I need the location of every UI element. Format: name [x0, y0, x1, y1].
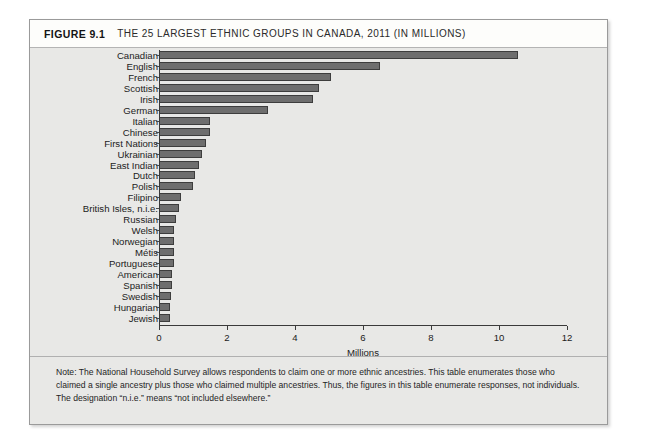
x-axis-tick: [159, 326, 160, 330]
bar-row: Russian: [30, 214, 607, 225]
category-label-wrap: Italian: [48, 116, 158, 127]
bar-row: Italian: [30, 116, 607, 127]
bar: [159, 95, 313, 103]
category-label-wrap: East Indian: [48, 160, 158, 171]
bar: [159, 84, 319, 92]
bar-row: Irish: [30, 94, 607, 105]
category-label: Welsh: [48, 225, 158, 236]
figure-note-area: Note: The National Household Survey allo…: [30, 356, 607, 424]
category-label-wrap: French: [48, 72, 158, 83]
category-label: Ukrainian: [48, 149, 158, 160]
bar-row: Welsh: [30, 225, 607, 236]
category-label: Scottish: [48, 83, 158, 94]
bar: [159, 150, 202, 158]
category-label-wrap: English: [48, 61, 158, 72]
bar-row: German: [30, 105, 607, 116]
bar-row: First Nations: [30, 138, 607, 149]
x-axis-tick: [567, 326, 568, 330]
bar: [159, 215, 176, 223]
bar: [159, 139, 206, 147]
bar-row: Métis: [30, 247, 607, 258]
x-axis-tick-label: 4: [280, 332, 310, 343]
x-axis-tick-label: 8: [416, 332, 446, 343]
x-axis-tick: [295, 326, 296, 330]
category-label: French: [48, 72, 158, 83]
x-axis-tick-label: 6: [348, 332, 378, 343]
category-label: Hungarian: [48, 302, 158, 313]
bar-row: East Indian: [30, 160, 607, 171]
category-label-wrap: Irish: [48, 94, 158, 105]
bar-row: Spanish: [30, 280, 607, 291]
category-label-wrap: American: [48, 269, 158, 280]
x-axis-tick: [431, 326, 432, 330]
category-label-wrap: Chinese: [48, 127, 158, 138]
category-label-wrap: Polish: [48, 181, 158, 192]
category-label: First Nations: [48, 138, 158, 149]
bar: [159, 128, 210, 136]
bar: [159, 62, 380, 70]
bar-row: Polish: [30, 181, 607, 192]
bar-row: Hungarian: [30, 302, 607, 313]
bar: [159, 303, 170, 311]
category-label-wrap: Norwegian: [48, 236, 158, 247]
bar: [159, 51, 518, 59]
figure-container: FIGURE 9.1 THE 25 LARGEST ETHNIC GROUPS …: [29, 19, 608, 425]
category-label: Spanish: [48, 280, 158, 291]
bar-row: American: [30, 269, 607, 280]
figure-label: FIGURE 9.1: [44, 28, 105, 40]
bar: [159, 161, 199, 169]
category-label-wrap: Filipino: [48, 192, 158, 203]
bar: [159, 270, 172, 278]
category-label: Canadian: [48, 50, 158, 61]
category-label: Norwegian: [48, 236, 158, 247]
category-label: Russian: [48, 214, 158, 225]
bar: [159, 117, 210, 125]
bar-row: French: [30, 72, 607, 83]
category-label-wrap: Dutch: [48, 170, 158, 181]
category-label: Portuguese: [48, 258, 158, 269]
category-label-wrap: Welsh: [48, 225, 158, 236]
category-label-wrap: First Nations: [48, 138, 158, 149]
category-label: Swedish: [48, 291, 158, 302]
bar: [159, 193, 181, 201]
category-label-wrap: Métis: [48, 247, 158, 258]
x-axis-tick-label: 10: [484, 332, 514, 343]
category-label-wrap: Scottish: [48, 83, 158, 94]
category-label: Irish: [48, 94, 158, 105]
x-axis-tick-label: 0: [144, 332, 174, 343]
y-axis-line: [159, 50, 160, 325]
bar: [159, 182, 193, 190]
category-label-wrap: British Isles, n.i.e.: [48, 203, 158, 214]
category-label-wrap: Spanish: [48, 280, 158, 291]
bar: [159, 237, 174, 245]
category-label: East Indian: [48, 160, 158, 171]
bar-row: English: [30, 61, 607, 72]
bar-row: Chinese: [30, 127, 607, 138]
figure-header: FIGURE 9.1 THE 25 LARGEST ETHNIC GROUPS …: [30, 20, 607, 48]
bar: [159, 248, 174, 256]
bar-row: British Isles, n.i.e.: [30, 203, 607, 214]
x-axis-tick: [227, 326, 228, 330]
category-label-wrap: Swedish: [48, 291, 158, 302]
bar-row: Filipino: [30, 192, 607, 203]
bar-row: Canadian: [30, 50, 607, 61]
category-label: German: [48, 105, 158, 116]
bar: [159, 171, 195, 179]
bar: [159, 314, 170, 322]
bar: [159, 281, 172, 289]
category-label-wrap: Portuguese: [48, 258, 158, 269]
bar-row: Portuguese: [30, 258, 607, 269]
category-label: Chinese: [48, 127, 158, 138]
figure-title: THE 25 LARGEST ETHNIC GROUPS IN CANADA, …: [117, 28, 466, 39]
x-axis-tick-label: 12: [552, 332, 582, 343]
bar: [159, 106, 268, 114]
chart-plot-area: CanadianEnglishFrenchScottishIrishGerman…: [30, 48, 607, 388]
figure-note-text: Note: The National Household Survey allo…: [56, 366, 581, 405]
category-label: Métis: [48, 247, 158, 258]
bar-row: Swedish: [30, 291, 607, 302]
category-label: British Isles, n.i.e.: [48, 203, 158, 214]
category-label: Dutch: [48, 170, 158, 181]
x-axis-tick-label: 2: [212, 332, 242, 343]
bar-row: Ukrainian: [30, 149, 607, 160]
category-label: Italian: [48, 116, 158, 127]
